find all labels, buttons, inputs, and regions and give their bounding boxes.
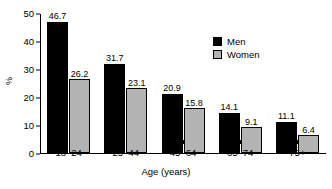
x-tick-mark-0: [69, 140, 70, 144]
bar-value-label: 20.9: [163, 84, 181, 93]
x-tick-label-4: 75+: [289, 148, 305, 158]
bar-men: 31.7: [104, 64, 125, 153]
x-axis-title: Age (years): [0, 166, 332, 177]
y-tick-mark-4: [36, 42, 40, 43]
y-tick-label-4: 40: [12, 37, 34, 47]
bar-value-label: 14.1: [220, 103, 238, 112]
y-tick-label-0: 0: [12, 149, 34, 159]
y-tick-label-1: 10: [12, 121, 34, 131]
bar-men: 46.7: [47, 22, 68, 153]
bar-value-label: 9.1: [245, 118, 258, 127]
y-tick-label-3: 30: [12, 65, 34, 75]
x-tick-mark-2: [183, 140, 184, 144]
x-tick-mark-4: [297, 140, 298, 144]
bar-value-label: 31.7: [106, 54, 124, 63]
y-axis-line: [40, 14, 41, 154]
y-tick-label-5: 50: [12, 9, 34, 19]
y-tick-mark-1: [36, 126, 40, 127]
y-tick-mark-3: [36, 70, 40, 71]
bar-women: 26.2: [69, 79, 90, 152]
y-tick-mark-2: [36, 98, 40, 99]
x-tick-label-3: 65–74: [227, 148, 253, 158]
bar-women: 15.8: [184, 108, 205, 152]
x-tick-mark-1: [126, 140, 127, 144]
x-tick-mark-3: [240, 140, 241, 144]
bar-value-label: 11.1: [278, 112, 295, 121]
legend-swatch-women: [213, 50, 222, 59]
bar-men: 20.9: [162, 94, 183, 153]
y-axis-tick-labels: 01020304050: [12, 14, 34, 154]
bar-value-label: 26.2: [71, 70, 89, 79]
y-tick-mark-5: [36, 14, 40, 15]
x-tick-label-2: 45–64: [170, 148, 196, 158]
legend-item-men: Men: [213, 35, 260, 48]
x-tick-label-0: 18–24: [55, 148, 81, 158]
bar-group: 46.726.2: [47, 14, 90, 153]
bar-value-label: 15.8: [185, 99, 203, 108]
y-tick-label-2: 20: [12, 93, 34, 103]
bar-group: 11.16.4: [276, 14, 319, 153]
legend-swatch-men: [213, 37, 222, 46]
legend-label: Women: [227, 50, 260, 60]
legend: MenWomen: [213, 35, 260, 61]
legend-item-women: Women: [213, 48, 260, 61]
bar-value-label: 23.1: [128, 79, 146, 88]
bar-women: 23.1: [126, 88, 147, 153]
plot-area: 46.726.231.723.120.915.814.19.111.16.4: [40, 14, 326, 154]
bar-value-label: 6.4: [302, 126, 315, 135]
bar-value-label: 46.7: [49, 12, 67, 21]
y-tick-mark-0: [36, 154, 40, 155]
legend-label: Men: [227, 37, 245, 47]
bar-chart: % 01020304050 46.726.231.723.120.915.814…: [0, 0, 332, 189]
x-tick-label-1: 25–44: [113, 148, 139, 158]
bar-group: 20.915.8: [162, 14, 205, 153]
bar-group: 31.723.1: [104, 14, 147, 153]
